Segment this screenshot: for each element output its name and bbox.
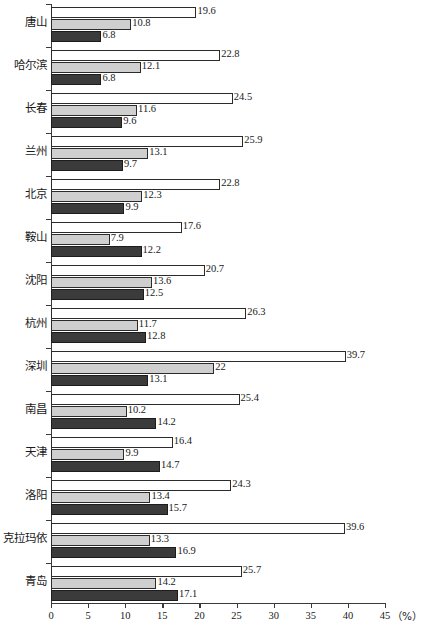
x-axis-tick-label: 35 — [306, 610, 317, 622]
x-axis-tick-label: 40 — [343, 610, 354, 622]
x-axis-line — [51, 603, 385, 604]
bar: 10.8 — [51, 19, 131, 30]
bar: 22.8 — [51, 179, 220, 190]
x-axis-tick-label: 15 — [157, 610, 168, 622]
bar-value-label: 22 — [215, 361, 226, 372]
category-label: 北京 — [25, 188, 47, 201]
bar-value-label: 13.1 — [149, 146, 167, 157]
bar: 10.2 — [51, 406, 127, 417]
bar-value-label: 12.1 — [142, 60, 160, 71]
bar: 14.2 — [51, 418, 156, 429]
bar-group: 南昌25.410.214.2 — [51, 391, 433, 434]
x-axis-tick — [348, 603, 349, 608]
bar-value-label: 12.5 — [145, 287, 163, 298]
bar: 17.1 — [51, 590, 178, 601]
bar-group: 鞍山17.67.912.2 — [51, 219, 433, 262]
bar-group: 哈尔滨22.812.16.8 — [51, 47, 433, 90]
bar: 6.8 — [51, 74, 101, 85]
bar: 22 — [51, 363, 214, 374]
category-tick — [46, 520, 51, 521]
bar-group: 青岛25.714.217.1 — [51, 563, 433, 606]
bar-value-label: 14.2 — [157, 416, 175, 427]
category-label: 克拉玛依 — [3, 532, 47, 545]
bar: 13.4 — [51, 492, 150, 503]
bar-value-label: 17.6 — [183, 220, 201, 231]
bar: 12.5 — [51, 289, 144, 300]
bar-value-label: 19.6 — [197, 5, 215, 16]
bar: 11.7 — [51, 320, 138, 331]
bar-group: 长春24.511.69.6 — [51, 90, 433, 133]
bar-value-label: 16.4 — [174, 435, 192, 446]
bar: 12.1 — [51, 62, 141, 73]
bar: 15.7 — [51, 504, 168, 515]
category-label: 唐山 — [25, 16, 47, 29]
bar: 12.2 — [51, 246, 142, 257]
category-tick — [46, 47, 51, 48]
horizontal-bar-chart: 唐山19.610.86.8哈尔滨22.812.16.8长春24.511.69.6… — [0, 0, 433, 632]
bar: 16.9 — [51, 547, 176, 558]
category-label: 哈尔滨 — [14, 59, 47, 72]
category-label: 长春 — [25, 102, 47, 115]
category-tick — [46, 348, 51, 349]
bar-group: 唐山19.610.86.8 — [51, 4, 433, 47]
category-label: 鞍山 — [25, 231, 47, 244]
x-axis-tick-label: 30 — [268, 610, 279, 622]
x-axis-tick-label: 20 — [194, 610, 205, 622]
bar-value-label: 11.7 — [139, 318, 157, 329]
x-axis-tick — [237, 603, 238, 608]
bar-value-label: 15.7 — [169, 502, 187, 513]
bar: 9.7 — [51, 160, 123, 171]
bar-value-label: 9.7 — [124, 158, 137, 169]
bar: 39.7 — [51, 351, 346, 362]
bar-value-label: 24.3 — [232, 478, 250, 489]
category-tick — [46, 90, 51, 91]
category-tick — [46, 219, 51, 220]
category-tick — [46, 262, 51, 263]
category-tick — [46, 176, 51, 177]
x-axis-tick-label: 45 — [380, 610, 391, 622]
category-tick — [46, 4, 51, 5]
bar-group: 深圳39.72213.1 — [51, 348, 433, 391]
bar: 16.4 — [51, 437, 173, 448]
x-axis-tick — [385, 603, 386, 608]
category-label: 青岛 — [25, 575, 47, 588]
bar-value-label: 6.8 — [102, 72, 115, 83]
bar-value-label: 22.8 — [221, 177, 239, 188]
bar-value-label: 14.2 — [157, 576, 175, 587]
category-label: 兰州 — [25, 145, 47, 158]
category-label: 杭州 — [25, 317, 47, 330]
bar: 14.2 — [51, 578, 156, 589]
bar-group: 兰州25.913.19.7 — [51, 133, 433, 176]
x-axis-tick — [162, 603, 163, 608]
category-label: 深圳 — [25, 360, 47, 373]
bar: 13.6 — [51, 277, 152, 288]
x-axis-tick-label: 10 — [120, 610, 131, 622]
bar-value-label: 9.9 — [125, 447, 138, 458]
bar-value-label: 6.8 — [102, 29, 115, 40]
bar-group: 沈阳20.713.612.5 — [51, 262, 433, 305]
bar: 22.8 — [51, 50, 220, 61]
bar-value-label: 13.4 — [151, 490, 169, 501]
bar-value-label: 17.1 — [179, 588, 197, 599]
bar: 9.6 — [51, 117, 122, 128]
bar-value-label: 14.7 — [161, 459, 179, 470]
bar-value-label: 25.4 — [241, 392, 259, 403]
bar: 39.6 — [51, 523, 345, 534]
bar-value-label: 13.1 — [149, 373, 167, 384]
bar-value-label: 22.8 — [221, 48, 239, 59]
x-axis-tick — [88, 603, 89, 608]
bar: 14.7 — [51, 461, 160, 472]
bar-value-label: 12.3 — [143, 189, 161, 200]
x-axis-unit-label: （%） — [392, 610, 422, 622]
bar: 7.9 — [51, 234, 110, 245]
x-axis-tick-label: 5 — [85, 610, 90, 622]
bar: 25.7 — [51, 566, 242, 577]
bar-value-label: 25.9 — [244, 134, 262, 145]
plot-area: 唐山19.610.86.8哈尔滨22.812.16.8长春24.511.69.6… — [51, 2, 433, 603]
bar-value-label: 16.9 — [177, 545, 195, 556]
bar: 9.9 — [51, 203, 124, 214]
x-axis-tick — [125, 603, 126, 608]
category-tick — [46, 305, 51, 306]
bar-group: 克拉玛依39.613.316.9 — [51, 520, 433, 563]
bar-value-label: 12.2 — [143, 244, 161, 255]
